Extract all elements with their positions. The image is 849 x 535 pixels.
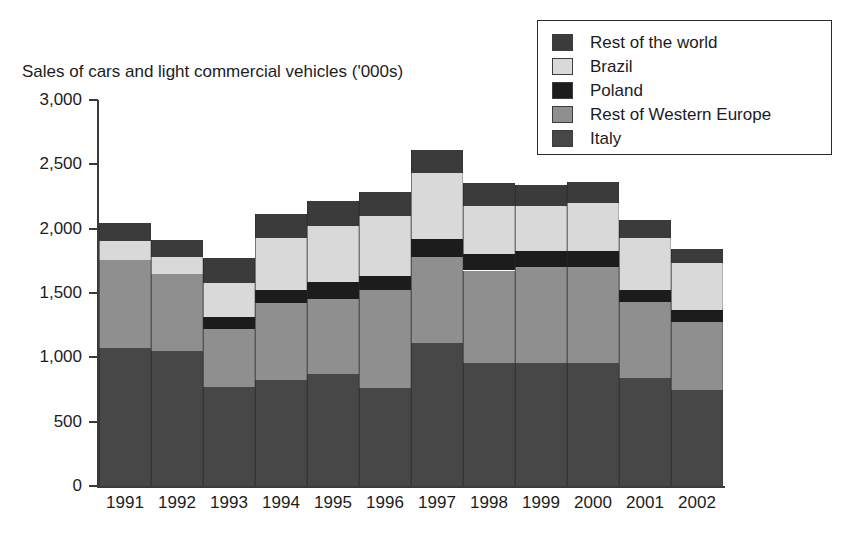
bar-segment[interactable] [255, 238, 307, 290]
x-tick-label: 1996 [359, 493, 411, 513]
y-tick-mark [89, 99, 98, 101]
bar-segment[interactable] [359, 290, 411, 388]
bar-segment[interactable] [411, 257, 463, 343]
chart-title: Sales of cars and light commercial vehic… [22, 62, 403, 82]
bar-stack[interactable] [411, 100, 463, 486]
bar-segment[interactable] [515, 267, 567, 363]
bar-segment[interactable] [151, 351, 203, 486]
bar-stack[interactable] [619, 100, 671, 486]
bar-segment[interactable] [619, 302, 671, 378]
bar-segment[interactable] [411, 150, 463, 173]
bar-stack[interactable] [567, 100, 619, 486]
x-tick-label: 2000 [567, 493, 619, 513]
legend-item[interactable]: Brazil [552, 54, 831, 78]
bar-segment[interactable] [411, 343, 463, 486]
bar-segment[interactable] [515, 251, 567, 267]
bar-segment[interactable] [255, 214, 307, 238]
x-tick-label: 1991 [99, 493, 151, 513]
y-tick-mark [89, 292, 98, 294]
bar-segment[interactable] [567, 251, 619, 267]
bar-segment[interactable] [307, 201, 359, 226]
bar-segment[interactable] [619, 238, 671, 290]
x-tick-label: 1997 [411, 493, 463, 513]
x-tick-label: 2001 [619, 493, 671, 513]
bar-segment[interactable] [671, 249, 723, 263]
legend-label: Brazil [590, 57, 633, 76]
bar-segment[interactable] [671, 310, 723, 322]
legend-label: Rest of the world [590, 33, 718, 52]
bar-segment[interactable] [255, 303, 307, 380]
x-tick-label: 1994 [255, 493, 307, 513]
legend-label: Poland [590, 81, 643, 100]
bar-segment[interactable] [151, 240, 203, 257]
bar-segment[interactable] [99, 241, 151, 260]
x-tick-label: 1999 [515, 493, 567, 513]
bar-segment[interactable] [567, 182, 619, 203]
bar-stack[interactable] [203, 100, 255, 486]
y-tick-label: 1,000 [4, 348, 82, 365]
bar-segment[interactable] [307, 226, 359, 282]
x-tick-label: 1993 [203, 493, 255, 513]
bar-segment[interactable] [255, 380, 307, 486]
bar-segment[interactable] [151, 257, 203, 274]
bar-segment[interactable] [567, 363, 619, 486]
bar-segment[interactable] [255, 290, 307, 303]
bar-segment[interactable] [99, 260, 151, 349]
bar-segment[interactable] [203, 387, 255, 486]
y-tick-label: 3,000 [4, 91, 82, 108]
bar-segment[interactable] [619, 290, 671, 302]
bar-segment[interactable] [463, 271, 515, 364]
bar-segment[interactable] [463, 254, 515, 271]
bar-segment[interactable] [567, 203, 619, 251]
bar-segment[interactable] [307, 374, 359, 486]
y-tick-mark [89, 356, 98, 358]
y-tick-mark [89, 163, 98, 165]
bar-segment[interactable] [619, 220, 671, 237]
bar-segment[interactable] [515, 206, 567, 251]
y-tick-label: 2,000 [4, 220, 82, 237]
bar-segment[interactable] [359, 388, 411, 486]
y-tick-mark [89, 485, 98, 487]
bar-segment[interactable] [515, 185, 567, 206]
legend-item[interactable]: Rest of the world [552, 30, 831, 54]
legend-item[interactable]: Poland [552, 78, 831, 102]
bar-stack[interactable] [307, 100, 359, 486]
y-tick-mark [89, 421, 98, 423]
bar-segment[interactable] [671, 263, 723, 310]
bar-segment[interactable] [359, 276, 411, 291]
bar-segment[interactable] [203, 317, 255, 329]
bar-segment[interactable] [619, 378, 671, 486]
bar-segment[interactable] [463, 183, 515, 206]
bar-stack[interactable] [151, 100, 203, 486]
bar-segment[interactable] [151, 274, 203, 351]
bar-stack[interactable] [671, 100, 723, 486]
bar-segment[interactable] [307, 282, 359, 299]
bar-stack[interactable] [255, 100, 307, 486]
bar-segment[interactable] [411, 239, 463, 257]
y-tick-label: 2,500 [4, 155, 82, 172]
bar-stack[interactable] [463, 100, 515, 486]
bar-segment[interactable] [203, 258, 255, 283]
bar-segment[interactable] [99, 348, 151, 486]
bar-segment[interactable] [463, 363, 515, 486]
bar-stack[interactable] [515, 100, 567, 486]
bar-segment[interactable] [515, 363, 567, 486]
bar-stack[interactable] [359, 100, 411, 486]
bar-segment[interactable] [203, 329, 255, 387]
bar-segment[interactable] [671, 390, 723, 486]
bar-segment[interactable] [359, 192, 411, 216]
bar-stack[interactable] [99, 100, 151, 486]
bar-segment[interactable] [463, 206, 515, 254]
x-tick-label: 1998 [463, 493, 515, 513]
y-tick-label: 1,500 [4, 284, 82, 301]
bar-segment[interactable] [671, 322, 723, 390]
legend-swatch-icon [552, 82, 573, 99]
bar-segment[interactable] [203, 283, 255, 317]
legend-swatch-icon [552, 58, 573, 75]
bar-segment[interactable] [359, 216, 411, 276]
bar-segment[interactable] [307, 299, 359, 374]
bar-segment[interactable] [411, 173, 463, 239]
y-tick-mark [89, 228, 98, 230]
bar-segment[interactable] [567, 267, 619, 363]
bar-segment[interactable] [99, 223, 151, 241]
